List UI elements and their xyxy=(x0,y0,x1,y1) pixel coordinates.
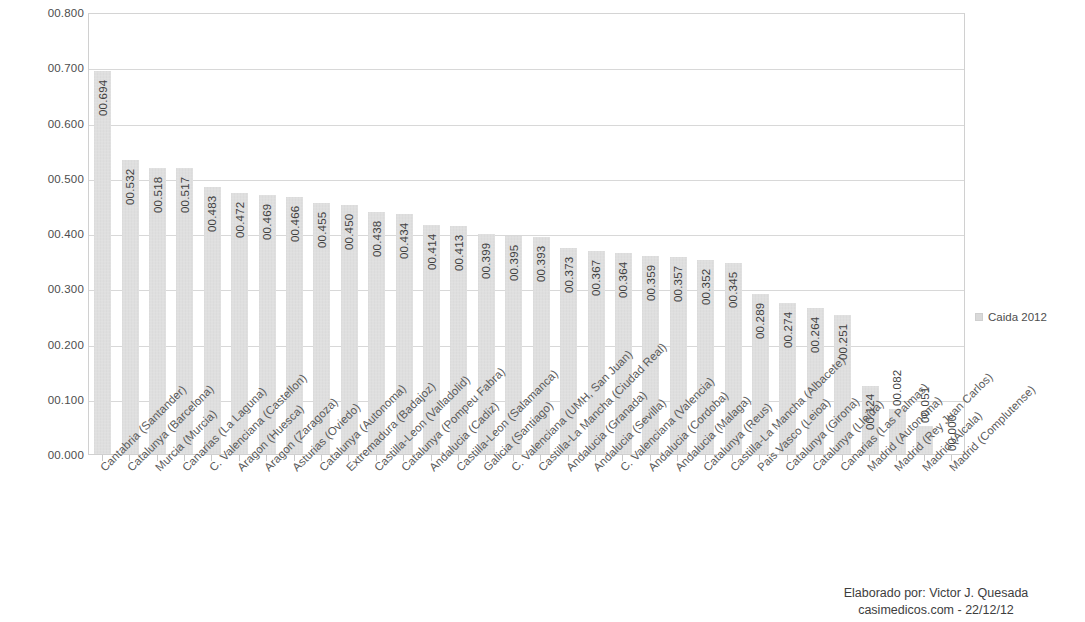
bar-slot: 00.518 xyxy=(144,12,171,454)
bar-slot: 00.373 xyxy=(555,12,582,454)
credit-block: Elaborado por: Victor J. Quesada casimed… xyxy=(806,585,1066,619)
bar-chart: 00.80000.70000.60000.50000.40000.30000.2… xyxy=(0,0,1085,622)
y-axis-tick-label: 00.600 xyxy=(28,118,84,130)
credit-author: Elaborado por: Victor J. Quesada xyxy=(806,585,1066,602)
plot-area: 00.69400.53200.51800.51700.48300.47200.4… xyxy=(88,13,965,455)
bar-slot: 00.395 xyxy=(500,12,527,454)
bar-slot: 00.532 xyxy=(116,12,143,454)
legend-swatch-icon xyxy=(975,313,983,321)
y-axis-tick-label: 00.400 xyxy=(28,228,84,240)
bar-slot: 00.694 xyxy=(89,12,116,454)
bars-layer: 00.69400.53200.51800.51700.48300.47200.4… xyxy=(89,14,964,454)
bar-slot: 00.289 xyxy=(747,12,774,454)
chart-legend: Caida 2012 xyxy=(975,311,1047,323)
y-axis-tick-label: 00.800 xyxy=(28,7,84,19)
bar[interactable] xyxy=(94,71,111,454)
y-axis-tick-label: 00.200 xyxy=(28,339,84,351)
y-axis-tick-label: 00.000 xyxy=(28,449,84,461)
y-axis: 00.80000.70000.60000.50000.40000.30000.2… xyxy=(28,13,84,455)
bar-slot: 00.345 xyxy=(719,12,746,454)
credit-source: casimedicos.com - 22/12/12 xyxy=(806,602,1066,619)
bar-slot: 00.357 xyxy=(665,12,692,454)
bar-slot: 00.359 xyxy=(637,12,664,454)
y-axis-tick-label: 00.100 xyxy=(28,394,84,406)
legend-label: Caida 2012 xyxy=(988,311,1047,323)
bar-slot: 00.000 xyxy=(939,12,966,454)
y-axis-tick-label: 00.300 xyxy=(28,283,84,295)
bar-slot: 00.274 xyxy=(774,12,801,454)
y-axis-tick-label: 00.500 xyxy=(28,173,84,185)
y-axis-tick-label: 00.700 xyxy=(28,62,84,74)
